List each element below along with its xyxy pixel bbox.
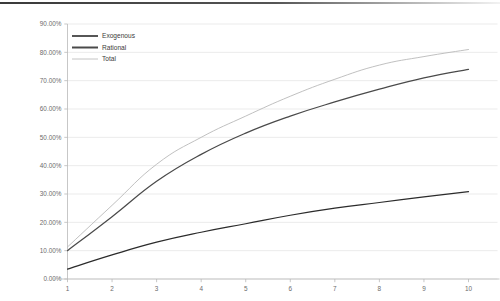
y-axis-tick-label: 80.00% bbox=[40, 49, 62, 56]
x-axis-tick-label: 2 bbox=[110, 285, 114, 292]
line-chart: 0.00%10.00%20.00%30.00%40.00%50.00%60.00… bbox=[0, 0, 500, 301]
legend-label-exogenous: Exogenous bbox=[102, 32, 136, 40]
x-axis-tick-label: 4 bbox=[199, 285, 203, 292]
y-axis-tick-label: 60.00% bbox=[40, 105, 62, 112]
y-axis-tick-label: 30.00% bbox=[40, 190, 62, 197]
y-axis-tick-label: 20.00% bbox=[40, 219, 62, 226]
x-axis-tick-label: 5 bbox=[244, 285, 248, 292]
y-axis-tick-label: 40.00% bbox=[40, 162, 62, 169]
x-axis-ticks: 12345678910 bbox=[66, 279, 473, 292]
gridlines-group bbox=[68, 24, 498, 279]
y-axis-tick-label: 90.00% bbox=[40, 20, 62, 27]
top-divider-rule bbox=[0, 2, 500, 4]
x-axis-tick-label: 3 bbox=[155, 285, 159, 292]
legend-label-total: Total bbox=[102, 55, 116, 62]
data-series-group bbox=[68, 50, 469, 270]
x-axis-tick-label: 6 bbox=[288, 285, 292, 292]
x-axis-tick-label: 8 bbox=[378, 285, 382, 292]
axes-group bbox=[54, 24, 500, 279]
y-axis-ticks: 0.00%10.00%20.00%30.00%40.00%50.00%60.00… bbox=[40, 20, 68, 282]
x-axis-tick-label: 1 bbox=[66, 285, 70, 292]
series-line-rational bbox=[68, 69, 469, 250]
legend-label-rational: Rational bbox=[102, 44, 127, 51]
x-axis-tick-label: 7 bbox=[333, 285, 337, 292]
x-axis-tick-label: 9 bbox=[422, 285, 426, 292]
chart-legend: ExogenousRationalTotal bbox=[72, 32, 136, 62]
y-axis-tick-label: 10.00% bbox=[40, 247, 62, 254]
series-line-total bbox=[68, 50, 469, 247]
x-axis-tick-label: 10 bbox=[465, 285, 473, 292]
y-axis-tick-label: 50.00% bbox=[40, 134, 62, 141]
chart-container: 0.00%10.00%20.00%30.00%40.00%50.00%60.00… bbox=[0, 0, 500, 301]
y-axis-tick-label: 70.00% bbox=[40, 77, 62, 84]
